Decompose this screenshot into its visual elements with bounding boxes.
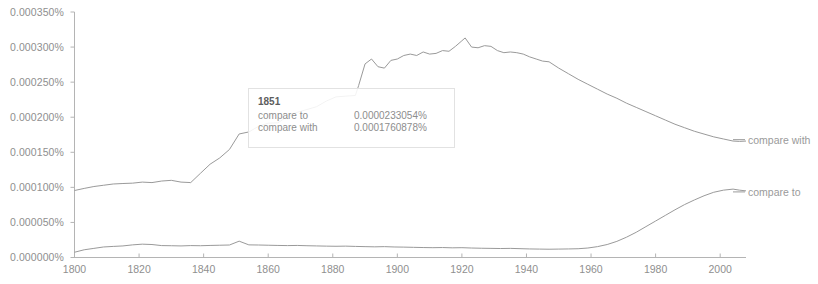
x-axis-tick-label: 1980 bbox=[631, 263, 681, 275]
hover-tooltip: 1851 compare to 0.0000233054% compare wi… bbox=[248, 88, 455, 148]
tooltip-row: compare to 0.0000233054% bbox=[258, 110, 445, 122]
series-label-compare-with: compare with bbox=[748, 134, 810, 146]
x-axis-tick-label: 1840 bbox=[179, 263, 229, 275]
x-axis-tick-label: 2000 bbox=[695, 263, 745, 275]
tooltip-row: compare with 0.0001760878% bbox=[258, 122, 445, 134]
tooltip-series-value: 0.0000233054% bbox=[354, 110, 445, 122]
x-axis-tick-label: 1900 bbox=[372, 263, 422, 275]
x-axis-tick-label: 1920 bbox=[437, 263, 487, 275]
x-axis-tick-label: 1880 bbox=[308, 263, 358, 275]
x-axis-tick-label: 1960 bbox=[566, 263, 616, 275]
y-axis-ticks bbox=[71, 12, 75, 258]
x-axis-tick-label: 1860 bbox=[243, 263, 293, 275]
x-axis-ticks bbox=[75, 254, 721, 258]
ngram-chart: 0.000350% 0.000300% 0.000250% 0.000200% … bbox=[0, 0, 818, 284]
tooltip-year: 1851 bbox=[258, 96, 445, 108]
x-axis-tick-label: 1940 bbox=[501, 263, 551, 275]
series-line-compare-to bbox=[75, 189, 747, 252]
x-axis-tick-label: 1820 bbox=[114, 263, 164, 275]
series-label-compare-to: compare to bbox=[748, 186, 801, 198]
tooltip-series-name: compare with bbox=[258, 122, 354, 134]
tooltip-series-name: compare to bbox=[258, 110, 354, 122]
x-axis-tick-label: 1800 bbox=[50, 263, 100, 275]
tooltip-series-value: 0.0001760878% bbox=[354, 122, 445, 134]
inline-legend-dashes bbox=[733, 140, 745, 192]
